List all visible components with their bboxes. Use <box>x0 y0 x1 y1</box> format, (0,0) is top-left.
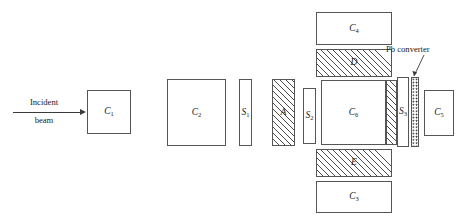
right-arrow-icon <box>80 109 86 115</box>
counter-c3-label: C3 <box>317 192 391 203</box>
counter-c4: C4 <box>316 12 392 45</box>
counter-c6: C6 <box>321 80 386 145</box>
scintillator-s3-label: S3 <box>398 107 408 118</box>
diagram-canvas: Incident beam C1 C2 S1 A S2 C4 <box>0 0 462 219</box>
counter-c2: C2 <box>167 79 226 146</box>
scintillator-s3: S3 <box>397 77 409 147</box>
counter-c4-label: C4 <box>317 23 391 34</box>
counter-c1-label: C1 <box>88 107 130 118</box>
incident-beam-group: Incident beam <box>12 98 90 126</box>
counter-c6-label: C6 <box>322 107 385 118</box>
pb-converter <box>411 77 419 147</box>
incident-beam-label-line1: Incident <box>12 98 76 107</box>
scintillator-s2-label: S2 <box>304 111 315 122</box>
absorber-e: E <box>316 149 392 177</box>
counter-c5: C5 <box>424 90 454 136</box>
counter-c3: C3 <box>316 181 392 213</box>
absorber-e-label: E <box>317 158 391 168</box>
scintillator-s1-label: S1 <box>240 107 251 118</box>
scintillator-s1: S1 <box>239 79 252 146</box>
absorber-a-label: A <box>273 108 294 118</box>
absorber-d: D <box>316 49 392 77</box>
leader-line-icon <box>398 54 438 86</box>
absorber-strip-right <box>386 80 397 145</box>
absorber-d-label: D <box>317 58 391 68</box>
absorber-a: A <box>272 79 295 146</box>
counter-c1: C1 <box>87 90 131 134</box>
incident-beam-label-line2: beam <box>12 116 76 125</box>
pb-converter-label: Pb converter <box>386 45 430 54</box>
scintillator-s2: S2 <box>303 88 316 144</box>
counter-c2-label: C2 <box>168 107 225 118</box>
counter-c5-label: C5 <box>425 108 453 119</box>
beam-line <box>13 112 81 113</box>
